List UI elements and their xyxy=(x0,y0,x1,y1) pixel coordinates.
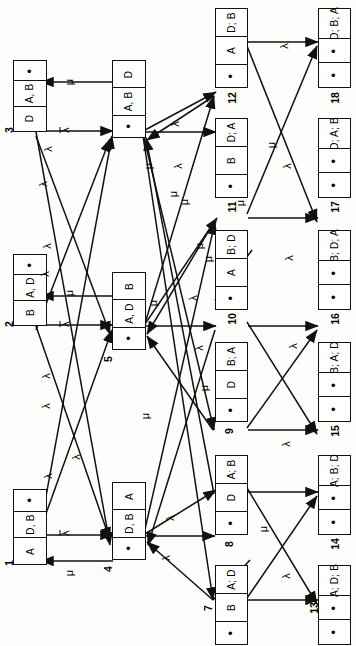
edge-label: λ xyxy=(167,512,173,524)
edge-label: λ xyxy=(42,268,48,280)
edge-label: μ xyxy=(205,253,211,265)
node-cell: • xyxy=(319,261,350,286)
edge-label: λ xyxy=(40,178,46,190)
node-cell: • xyxy=(216,287,247,309)
node-cell: A; B xyxy=(216,456,247,484)
edge-label: μ xyxy=(170,188,176,200)
node-cell: • xyxy=(216,512,247,534)
edge-label: λ xyxy=(286,252,292,264)
state-node[interactable]: • A, D B xyxy=(13,254,47,326)
node-cell: • xyxy=(319,620,350,644)
node-cell: A, D xyxy=(113,300,145,327)
node-cell: B; D xyxy=(216,231,247,259)
state-node[interactable]: D; A B • xyxy=(215,118,248,198)
node-cell: B xyxy=(216,594,247,622)
node-cell: • xyxy=(113,538,145,559)
node-cell: • xyxy=(319,373,350,398)
node-cell: • xyxy=(14,490,46,512)
node-cell: • xyxy=(14,61,46,81)
node-cell: • xyxy=(216,65,247,87)
state-node[interactable]: • D, B A xyxy=(13,489,47,565)
node-cell: A; D; B xyxy=(319,566,350,596)
node-cell: B xyxy=(113,273,145,300)
node-cell: • xyxy=(319,173,350,197)
edge-label: λ xyxy=(283,570,289,582)
node-cell: • xyxy=(319,149,350,174)
edge-label: λ xyxy=(45,143,51,155)
node-cell: • xyxy=(319,510,350,534)
edge-label: μ xyxy=(66,76,72,88)
state-node[interactable]: A; D; B • • xyxy=(318,565,351,645)
edge-label: μ xyxy=(237,197,243,209)
node-cell: • xyxy=(319,486,350,511)
node-cell: • xyxy=(319,63,350,87)
state-node[interactable]: D A, B • xyxy=(112,60,146,138)
state-node[interactable]: B A, D • xyxy=(112,272,146,350)
edge-label: μ xyxy=(181,196,187,208)
node-cell: • xyxy=(216,399,247,421)
edge-label: λ xyxy=(73,451,79,463)
state-node[interactable]: • A, B D xyxy=(13,60,47,132)
node-cell: B; A; D xyxy=(319,343,350,373)
node-cell: D; A; B xyxy=(319,119,350,149)
node-cell: A, B xyxy=(14,81,46,106)
state-node[interactable]: A D, B • xyxy=(112,482,146,560)
state-node[interactable]: B; D; A • • xyxy=(318,230,351,310)
node-cell: D xyxy=(113,61,145,88)
node-cell: D, B xyxy=(113,510,145,537)
edge-label: λ xyxy=(163,552,169,564)
node-cell: D xyxy=(216,484,247,512)
edge-label: λ xyxy=(63,124,69,137)
state-node[interactable]: A; D B • xyxy=(215,565,248,645)
edge-label: μ xyxy=(142,410,148,422)
node-cell: A xyxy=(113,483,145,510)
node-cell: A xyxy=(216,37,247,65)
edge-label: λ xyxy=(44,240,50,252)
node-cell: D, B xyxy=(14,512,46,539)
node-cell: • xyxy=(113,116,145,137)
node-cell: D xyxy=(14,107,46,131)
node-cell: • xyxy=(319,397,350,421)
node-cell: • xyxy=(216,175,247,197)
edge-label: μ xyxy=(66,567,72,579)
edge-label: λ xyxy=(175,160,181,172)
edge-label: λ xyxy=(290,340,296,352)
edge-label: λ xyxy=(284,160,290,172)
node-cell: B; D; A xyxy=(319,231,350,261)
node-cell: • xyxy=(319,39,350,64)
edge-label: μ xyxy=(201,382,207,394)
edge-label: λ xyxy=(63,318,69,331)
edge-label: μ xyxy=(268,139,274,151)
node-cell: B xyxy=(216,147,247,175)
node-cell: A xyxy=(14,538,46,564)
state-node[interactable]: B; A; D • • xyxy=(318,342,351,422)
diagram-canvas: • A, B D 3 • A, D B 2 • D, B A 1 D A, B … xyxy=(0,0,356,646)
node-cell: • xyxy=(319,285,350,309)
state-node[interactable]: A; B; D • • xyxy=(318,455,351,535)
node-cell: • xyxy=(216,622,247,644)
edge-label: μ xyxy=(145,160,151,172)
state-node[interactable]: B; D A • xyxy=(215,230,248,310)
node-cell: D; B; A xyxy=(319,9,350,39)
edge-label: λ xyxy=(43,400,49,412)
edge-label: λ xyxy=(283,438,289,450)
node-cell: A; B; D xyxy=(319,456,350,486)
edge-label: μ xyxy=(196,240,202,252)
edge-label: λ xyxy=(281,40,287,52)
edge-label: λ xyxy=(45,470,51,482)
state-node[interactable]: A; B D • xyxy=(215,455,248,535)
state-node[interactable]: D; B; A • • xyxy=(318,8,351,88)
node-cell: • xyxy=(113,328,145,349)
node-cell: D xyxy=(216,371,247,399)
node-cell: • xyxy=(319,596,350,621)
state-node[interactable]: D; A; B • • xyxy=(318,118,351,198)
edge-label: λ xyxy=(196,342,202,354)
node-cell: B xyxy=(14,301,46,325)
state-node[interactable]: B; A D • xyxy=(215,342,248,422)
edge-label: λ xyxy=(63,527,69,540)
edge-label: μ xyxy=(260,523,266,535)
edge-label: λ xyxy=(172,118,178,130)
node-cell: A, B xyxy=(113,88,145,115)
state-node[interactable]: D; B A • xyxy=(215,8,248,88)
node-cell: A; D xyxy=(216,566,247,594)
